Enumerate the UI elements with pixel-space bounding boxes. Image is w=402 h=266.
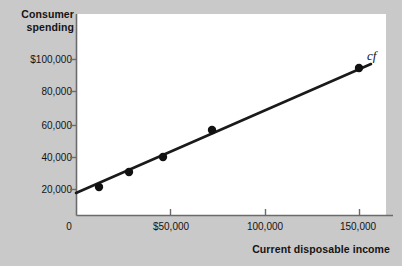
y-axis-title: Consumer spending [12,8,74,34]
x-axis-title: Current disposable income [252,243,390,255]
y-axis-title-line1: Consumer [12,8,74,21]
y-tick-label-80000: 80,000 [4,86,72,97]
y-tick-label-20000: 20,000 [4,184,72,195]
plot-area [76,14,386,215]
x-tick-label-100000: 100,000 [230,221,300,232]
chart-figure: Consumer spending Current disposable inc… [0,0,402,266]
curve-label-cf: cf [367,48,376,64]
y-tick-label-40000: 40,000 [4,152,72,163]
x-tick-label-0: 0 [34,221,104,232]
y-tick-label-100000: $100,000 [4,54,72,65]
y-tick-label-60000: 60,000 [4,120,72,131]
x-tick-label-150000: 150,000 [323,221,393,232]
y-axis-title-line2: spending [12,21,74,34]
x-tick-label-50000: $50,000 [136,221,206,232]
